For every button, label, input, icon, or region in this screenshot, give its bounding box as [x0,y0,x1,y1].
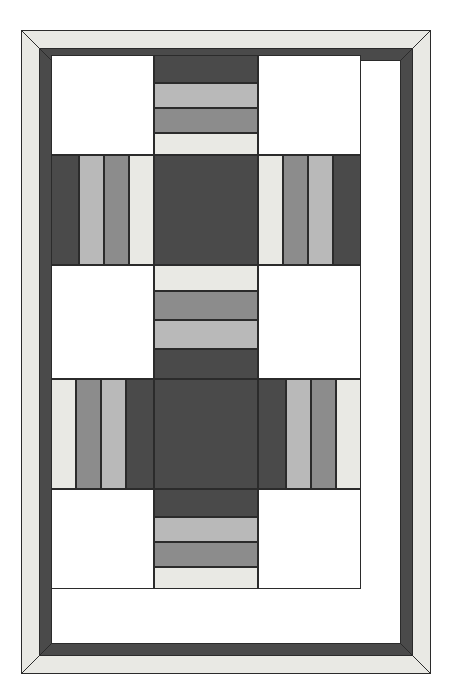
bottom-center-strip-set-strip-2 [154,517,258,542]
upper-center-dark-square [154,155,258,265]
upper-left-strip-set [51,155,154,265]
top-center-strip-set-strip-1 [154,55,258,83]
middle-center-strip-set-strip-4 [154,349,258,379]
lower-right-strip-set [258,379,361,489]
lower-left-strip-set-strip-4 [126,379,154,489]
top-center-strip-set-strip-4 [154,133,258,155]
top-left-plain-square-patch [51,55,154,155]
lower-left-strip-set-strip-3 [101,379,126,489]
top-center-strip-set-strip-2 [154,83,258,108]
upper-right-strip-set-strip-4 [333,155,361,265]
bottom-center-strip-set-strip-1 [154,489,258,517]
bottom-right-plain-square [258,489,361,589]
lower-center-dark-square [154,379,258,489]
border-outer-right [413,30,431,674]
top-left-plain-square [51,55,154,155]
bottom-left-plain-square-patch [51,489,154,589]
lower-left-strip-set-strip-2 [76,379,101,489]
top-right-plain-square-patch [258,55,361,155]
top-center-strip-set [154,55,258,155]
upper-center-dark-square-patch [154,155,258,265]
upper-left-strip-set-strip-3 [104,155,129,265]
middle-center-strip-set-strip-3 [154,320,258,349]
middle-left-plain-square-patch [51,265,154,379]
border-inner-right [401,48,413,656]
lower-right-strip-set-strip-1 [258,379,286,489]
bottom-left-plain-square [51,489,154,589]
border-inner-left [39,48,51,656]
upper-right-strip-set-strip-1 [258,155,283,265]
lower-right-strip-set-strip-4 [336,379,361,489]
bottom-center-strip-set-strip-4 [154,567,258,589]
upper-left-strip-set-strip-1 [51,155,79,265]
border-outer-top [21,30,431,48]
border-inner-bottom [39,644,413,656]
border-outer-left [21,30,39,674]
pieced-field [51,55,361,589]
bottom-center-strip-set-strip-3 [154,542,258,567]
top-center-strip-set-strip-3 [154,108,258,133]
upper-left-strip-set-strip-4 [129,155,154,265]
upper-right-strip-set [258,155,361,265]
upper-right-strip-set-strip-2 [283,155,308,265]
middle-center-strip-set-strip-1 [154,265,258,291]
bottom-center-strip-set [154,489,258,589]
middle-center-strip-set [154,265,258,379]
middle-right-plain-square [258,265,361,379]
figure-canvas [0,0,453,700]
upper-right-strip-set-strip-3 [308,155,333,265]
middle-center-strip-set-strip-2 [154,291,258,320]
lower-left-strip-set [51,379,154,489]
lower-right-strip-set-strip-3 [311,379,336,489]
lower-left-strip-set-strip-1 [51,379,76,489]
middle-right-plain-square-patch [258,265,361,379]
top-right-plain-square [258,55,361,155]
lower-right-strip-set-strip-2 [286,379,311,489]
middle-left-plain-square [51,265,154,379]
upper-left-strip-set-strip-2 [79,155,104,265]
border-outer-bottom [21,656,431,674]
bottom-right-plain-square-patch [258,489,361,589]
lower-center-dark-square-patch [154,379,258,489]
